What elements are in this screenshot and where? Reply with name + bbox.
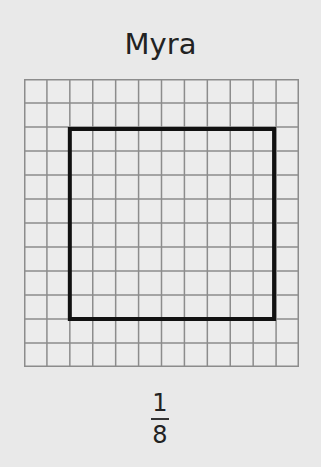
fraction-denominator: 8: [140, 422, 180, 448]
fraction-bar: [151, 418, 169, 420]
fraction-numerator: 1: [140, 390, 180, 416]
grid-with-rectangle: [24, 79, 299, 367]
name-label: Myra: [0, 27, 321, 61]
fraction: 1 8: [140, 390, 180, 448]
grid-lines: [24, 79, 299, 367]
